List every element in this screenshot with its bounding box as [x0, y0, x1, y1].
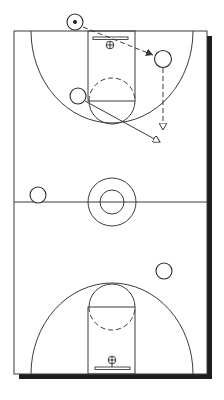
basket-top-icon: [106, 41, 114, 49]
play-diagram: Basketball full-court play diagram: [0, 0, 224, 400]
player-with-ball[interactable]: [67, 14, 83, 30]
player-left-elbow[interactable]: [70, 88, 86, 104]
backboard-top: [93, 37, 128, 40]
ball-icon: [73, 20, 77, 24]
backboard-bottom: [95, 367, 130, 370]
player-right-backcourt[interactable]: [156, 263, 172, 279]
court: [14, 31, 207, 374]
player-right-wing[interactable]: [155, 51, 172, 68]
player-left-halfcourt[interactable]: [30, 187, 46, 203]
